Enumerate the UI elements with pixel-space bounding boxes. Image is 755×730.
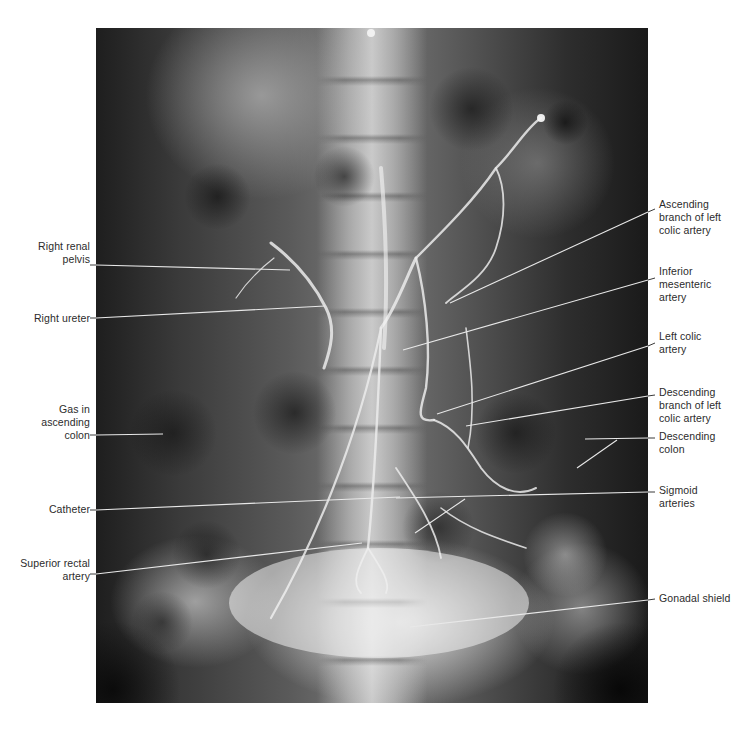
- label-left-colic-artery: Left colic artery: [659, 330, 755, 356]
- label-right-renal-pelvis: Right renal pelvis: [20, 240, 90, 266]
- abdominal-radiograph-image: [96, 28, 648, 703]
- label-right-ureter: Right ureter: [10, 312, 90, 325]
- label-superior-rectal-artery: Superior rectal artery: [0, 557, 90, 583]
- label-gas-in-ascending-colon: Gas in ascending colon: [20, 403, 90, 442]
- label-ascending-branch-of-left-colic-artery: Ascending branch of left colic artery: [659, 198, 755, 237]
- label-gonadal-shield: Gonadal shield: [659, 592, 755, 605]
- label-sigmoid-arteries: Sigmoid arteries: [659, 484, 755, 510]
- annotated-arteriogram-figure: Right renal pelvis Right ureter Gas in a…: [0, 0, 755, 730]
- contrast-vessels: [96, 28, 648, 703]
- label-catheter: Catheter: [20, 503, 90, 516]
- label-descending-colon: Descending colon: [659, 430, 755, 456]
- gonadal-shield-shadow: [229, 548, 529, 658]
- label-descending-branch-of-left-colic-artery: Descending branch of left colic artery: [659, 386, 755, 425]
- label-inferior-mesenteric-artery: Inferior mesenteric artery: [659, 265, 755, 304]
